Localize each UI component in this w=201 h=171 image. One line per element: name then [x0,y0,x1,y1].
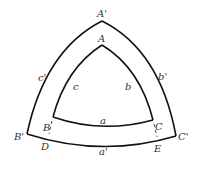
label-vertex-c-prime: C' [178,131,188,142]
label-side-b-prime: b' [158,71,167,82]
label-vertex-b-prime: B' [13,131,24,142]
label-vertex-a-prime: A' [96,8,107,19]
label-side-a: a [100,115,106,126]
label-point-e: E [153,143,162,154]
label-vertex-c: C [155,121,163,132]
label-point-d: D [40,141,49,152]
spherical-triangle-diagram: A' A B' B C' C D E c' b' a' c b a [0,0,201,171]
label-vertex-a: A [97,33,105,44]
label-side-c-prime: c' [38,72,46,83]
label-side-c: c [73,81,79,92]
label-side-a-prime: a' [99,146,108,157]
label-vertex-b: B [42,122,50,133]
label-side-b: b [125,81,131,92]
